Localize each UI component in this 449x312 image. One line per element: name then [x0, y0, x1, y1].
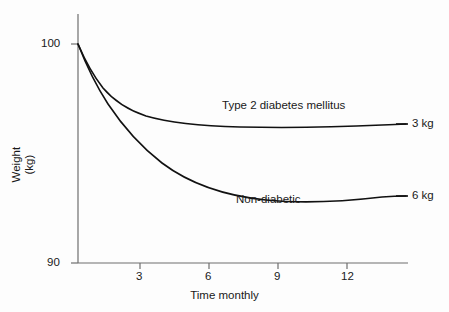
chart-plot-area — [0, 0, 449, 312]
end-value-label-non-diabetic: 6 kg — [412, 189, 434, 202]
y-axis-title-line2: (kg) — [23, 130, 36, 200]
series-line-non-diabetic — [78, 44, 406, 202]
x-tick-label-9: 9 — [274, 270, 280, 283]
series-line-type2-diabetes — [78, 44, 406, 127]
series-annotation-non-diabetic: Non-diabetic — [236, 193, 301, 206]
x-tick-label-6: 6 — [205, 270, 211, 283]
y-tick-label-100: 100 — [41, 37, 60, 50]
x-axis-title: Time monthly — [0, 289, 449, 302]
chart-container: 100 90 3 6 9 12 Time monthly Weight (kg)… — [0, 0, 449, 312]
x-tick-label-3: 3 — [136, 270, 142, 283]
y-axis-title: Weight (kg) — [10, 130, 35, 200]
y-axis-title-line1: Weight — [10, 130, 23, 200]
x-tick-label-12: 12 — [341, 270, 354, 283]
end-value-label-type2-diabetes: 3 kg — [412, 117, 434, 130]
series-annotation-type2-diabetes: Type 2 diabetes mellitus — [222, 99, 345, 112]
y-tick-label-90: 90 — [47, 256, 60, 269]
